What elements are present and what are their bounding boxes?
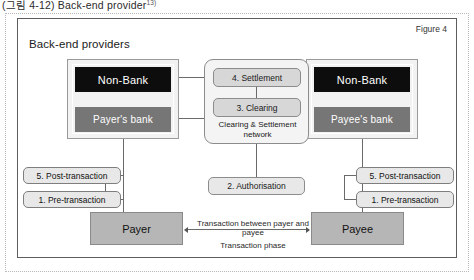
wire-left-bank-to-payer (123, 131, 124, 216)
phase-pill-left-pre-transaction[interactable]: 1. Pre-transaction (23, 191, 121, 208)
bank-group-left: Non-Bank Payer's bank (67, 59, 179, 139)
clearing-box[interactable]: 3. Clearing (213, 98, 301, 117)
settlement-box[interactable]: 4. Settlement (213, 68, 301, 87)
transaction-phase-label: Transaction phase (188, 241, 318, 250)
figure-panel: Figure 4 Back-end providers Non-Bank Pay… (17, 18, 457, 258)
wire-settlement-to-clearing (256, 87, 257, 98)
network-caption: Clearing & Settlement network (209, 120, 306, 140)
payer-box[interactable]: Payer (90, 212, 183, 245)
non-bank-box-right[interactable]: Non-Bank (314, 67, 410, 92)
phase-pill-left-post-transaction[interactable]: 5. Post-transaction (23, 167, 121, 184)
phase-pill-right-pre-transaction[interactable]: 1. Pre-transaction (356, 191, 454, 208)
phase-pill-right-post-transaction[interactable]: 5. Post-transaction (356, 167, 454, 184)
payee-box[interactable]: Payee (311, 212, 404, 245)
transaction-between-label: Transaction between payer and payee (188, 219, 318, 237)
clearing-settlement-network: 4. Settlement 3. Clearing Clearing & Set… (204, 59, 309, 144)
figure-number-label: Figure 4 (416, 24, 447, 34)
page-title: Back-end providers (29, 38, 130, 50)
non-bank-box-left[interactable]: Non-Bank (75, 67, 171, 92)
authorisation-box[interactable]: 2. Authorisation (208, 177, 305, 195)
wire-left-bank-to-settlement-h (178, 77, 204, 78)
payees-bank-box[interactable]: Payee's bank (314, 107, 410, 132)
page-caption: (그림 4-12) Back-end provider13) (2, 0, 156, 12)
caption-text: (그림 4-12) Back-end provider (2, 0, 146, 11)
caption-footnote-marker: 13) (146, 0, 156, 6)
payers-bank-box[interactable]: Payer's bank (75, 107, 171, 132)
wire-authorisation-to-network (256, 144, 257, 177)
bank-group-right: Non-Bank Payee's bank (306, 59, 418, 139)
wire-right-pill-riser (344, 175, 345, 199)
